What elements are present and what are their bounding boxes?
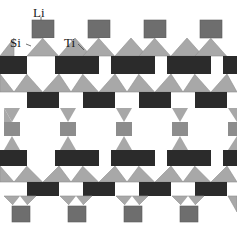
- ti-octahedra-row-4: [27, 182, 227, 196]
- channel-pillar: [116, 108, 132, 150]
- si-tetrahedra-row-1: [0, 38, 237, 56]
- label-ti: Ti: [64, 36, 75, 49]
- ti-octahedra-row-2: [27, 92, 227, 108]
- si-tetrahedra-row-bottom: [4, 196, 237, 212]
- label-si: Si: [10, 36, 21, 49]
- ti-octahedra-row-3: [0, 150, 237, 166]
- crystal-structure-figure: Li Si Ti: [0, 0, 237, 225]
- channel-pillar: [60, 108, 76, 150]
- channel-pillar: [4, 108, 20, 150]
- li-cap-row-bottom: [12, 206, 198, 222]
- open-channel-band: [4, 108, 237, 150]
- crystal-lattice-svg: [0, 0, 237, 225]
- li-cap-row-top: [32, 20, 222, 38]
- label-li: Li: [33, 6, 45, 19]
- si-tetrahedra-row-2: [0, 74, 237, 92]
- channel-pillar: [228, 108, 237, 150]
- si-tetrahedra-row-3: [0, 166, 237, 182]
- ti-octahedra-row-1: [0, 56, 237, 74]
- channel-pillar: [172, 108, 188, 150]
